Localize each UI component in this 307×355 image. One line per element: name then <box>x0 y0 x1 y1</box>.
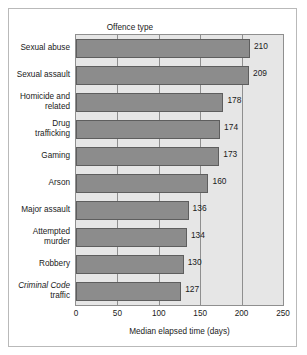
bar-value-label: 174 <box>220 122 238 133</box>
bar-row: 136Major assault <box>76 197 283 224</box>
category-label-line: Arson <box>14 178 70 188</box>
x-tick-label-200: 200 <box>227 309 257 319</box>
bar <box>76 255 184 274</box>
bar-value-label: 178 <box>223 95 241 106</box>
bar-value-label: 127 <box>181 284 199 295</box>
x-axis-label: Median elapsed time (days) <box>76 327 283 336</box>
category-label: Attemptedmurder <box>14 227 70 247</box>
bar-value-label: 173 <box>219 149 237 160</box>
bar-value-label: 130 <box>184 257 202 268</box>
category-label-line: Homicide and <box>14 92 70 102</box>
bar-row: 209Sexual assault <box>76 62 283 89</box>
category-label-line: Drug <box>14 119 70 129</box>
bar-value-label: 160 <box>208 176 226 187</box>
category-label: Drugtrafficking <box>14 119 70 139</box>
bar <box>76 39 250 58</box>
category-label: Arson <box>14 178 70 188</box>
bar <box>76 93 223 112</box>
bar <box>76 228 187 247</box>
category-label-line: Gaming <box>14 151 70 161</box>
category-label: Criminal Codetraffic <box>14 281 70 301</box>
category-label-line: Sexual abuse <box>14 43 70 53</box>
category-label: Sexual abuse <box>14 43 70 53</box>
bar <box>76 282 181 301</box>
category-label: Major assault <box>14 205 70 215</box>
category-label: Sexual assault <box>14 70 70 80</box>
category-label-line: murder <box>14 237 70 247</box>
bar-value-label: 209 <box>249 68 267 79</box>
category-label-line: trafficking <box>14 129 70 139</box>
bar <box>76 66 249 85</box>
x-tick-label-100: 100 <box>144 309 174 319</box>
category-label-line: Major assault <box>14 205 70 215</box>
bar-row: 127Criminal Codetraffic <box>76 278 283 305</box>
bar <box>76 174 208 193</box>
chart-figure: Offence type 210Sexual abuse209Sexual as… <box>8 8 297 347</box>
category-label-line: traffic <box>14 291 70 301</box>
category-label: Gaming <box>14 151 70 161</box>
bar <box>76 201 189 220</box>
plot-area: 210Sexual abuse209Sexual assault178Homic… <box>75 34 284 306</box>
bar-row: 174Drugtrafficking <box>76 116 283 143</box>
category-label: Robbery <box>14 259 70 269</box>
category-label-line: Robbery <box>14 259 70 269</box>
category-label-line: related <box>14 102 70 112</box>
bar-row: 178Homicide andrelated <box>76 89 283 116</box>
bar <box>76 120 220 139</box>
category-label-line: Criminal Code <box>14 281 70 291</box>
bar-row: 134Attemptedmurder <box>76 224 283 251</box>
bar-row: 160Arson <box>76 170 283 197</box>
x-tick-label-250: 250 <box>268 309 298 319</box>
offence-type-header: Offence type <box>23 23 153 33</box>
bar <box>76 147 219 166</box>
x-tick-label-150: 150 <box>185 309 215 319</box>
bar-row: 130Robbery <box>76 251 283 278</box>
category-label-line: Attempted <box>14 227 70 237</box>
category-label-line: Sexual assault <box>14 70 70 80</box>
bar-value-label: 134 <box>187 230 205 241</box>
category-label: Homicide andrelated <box>14 92 70 112</box>
x-tick-label-0: 0 <box>61 309 91 319</box>
bar-row: 210Sexual abuse <box>76 35 283 62</box>
bar-value-label: 136 <box>189 203 207 214</box>
bar-value-label: 210 <box>250 41 268 52</box>
x-tick-label-50: 50 <box>102 309 132 319</box>
bar-row: 173Gaming <box>76 143 283 170</box>
